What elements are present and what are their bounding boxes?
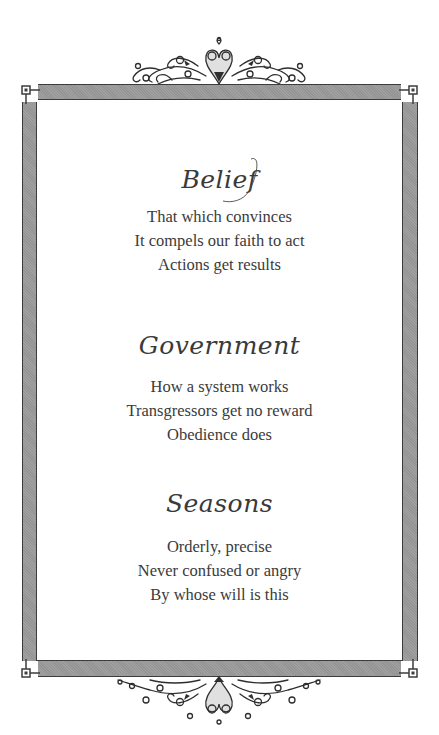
stanza-line: Actions get results	[36, 253, 403, 277]
stanza-line: That which convinces	[36, 205, 403, 229]
stanza-line: Transgressors get no reward	[36, 399, 403, 423]
stanza-title: Government	[36, 331, 403, 361]
stanza-seasons: Seasons Orderly, precise Never confused …	[36, 489, 403, 607]
stanza-title: Belief	[181, 165, 257, 195]
stanza-title: Seasons	[36, 489, 403, 519]
stanza-line: How a system works	[36, 375, 403, 399]
stanza-line: Orderly, precise	[36, 535, 403, 559]
stanza-line: Never confused or angry	[36, 559, 403, 583]
bottom-scroll-ornament-icon	[0, 676, 439, 732]
stanza-line: Obedience does	[36, 423, 403, 447]
stanza-government: Government How a system works Transgress…	[36, 331, 403, 447]
poem-content: Belief That which convinces It compels o…	[36, 99, 403, 661]
stanza-line: It compels our faith to act	[36, 229, 403, 253]
stanza-line: By whose will is this	[36, 583, 403, 607]
top-scroll-ornament-icon	[0, 36, 439, 88]
stanza-belief: Belief That which convinces It compels o…	[36, 165, 403, 277]
